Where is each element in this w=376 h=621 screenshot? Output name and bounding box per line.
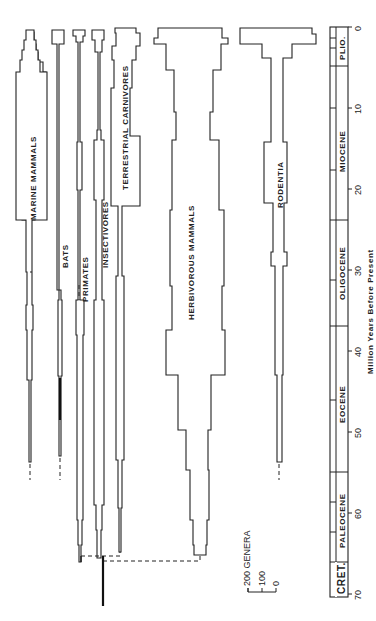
tick-30: 30	[353, 266, 363, 276]
tick-10: 10	[353, 104, 363, 114]
tick-40: 40	[353, 347, 363, 357]
tick-0: 0	[353, 26, 363, 31]
scale-label: 200 GENERA	[242, 530, 252, 586]
epoch-eocene: EOCENE	[338, 386, 347, 423]
epoch-miocene: MIOCENE	[338, 130, 347, 172]
epoch-oligocene: OLIGOCENE	[338, 247, 347, 300]
axis-label: Million Years Before Present	[366, 249, 375, 374]
label-terrestrial-carnivores: TERRESTRIAL CARNIVORES	[121, 65, 130, 190]
spindle-marine-mammals: MARINE MAMMALS	[16, 30, 47, 480]
epoch-pliocene: PLIO.	[338, 36, 347, 60]
label-primates: PRIMATES	[81, 256, 90, 302]
label-bats: BATS	[61, 244, 70, 268]
tick-20: 20	[353, 185, 363, 195]
epoch-cretaceous: CRET.	[336, 562, 347, 594]
tick-60: 60	[353, 509, 363, 519]
diversity-diagram: MARINE MAMMALS BATS PRIMATES INSECTIVORE…	[0, 0, 376, 621]
spindle-herbivorous-mammals: HERBIVOROUS MAMMALS	[154, 28, 228, 555]
spindle-insectivores: INSECTIVORES	[92, 30, 110, 558]
time-axis: 0 10 20 30 40 50 60 70 Million Years Bef…	[348, 26, 375, 600]
spindle-primates: PRIMATES	[73, 30, 90, 562]
phylogeny-connectors	[81, 552, 200, 606]
spindle-bats: BATS	[52, 30, 70, 480]
label-marine-mammals: MARINE MAMMALS	[29, 136, 38, 220]
spindle-rodentia: RODENTIA	[240, 28, 316, 480]
epoch-paleocene: PALEOCENE	[338, 493, 347, 548]
label-rodentia: RODENTIA	[276, 161, 285, 208]
scale-mid: 100	[257, 571, 267, 586]
spindle-terrestrial-carnivores: TERRESTRIAL CARNIVORES	[111, 28, 140, 552]
tick-70: 70	[353, 590, 363, 600]
label-herbivorous-mammals: HERBIVOROUS MAMMALS	[187, 205, 196, 320]
tick-50: 50	[353, 428, 363, 438]
scale-bar: 200 GENERA 100 0	[242, 530, 281, 592]
epoch-bar: PLIO. MIOCENE OLIGOCENE EOCENE PALEOCENE…	[330, 27, 348, 597]
label-insectivores: INSECTIVORES	[101, 201, 110, 268]
scale-zero: 0	[271, 581, 281, 586]
